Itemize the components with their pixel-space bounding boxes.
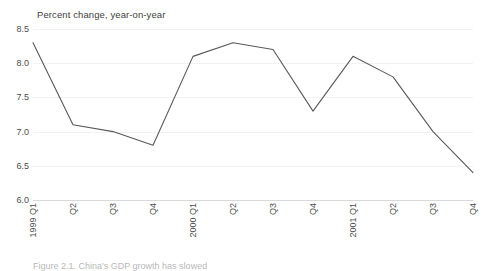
x-tick-label-text: Q2	[229, 203, 238, 215]
y-tick-label: 6.0	[3, 195, 29, 205]
x-tick-label: Q4	[147, 203, 159, 265]
x-tick-label-text: Q4	[309, 203, 318, 215]
y-axis: 6.06.57.07.58.08.5	[0, 29, 29, 200]
x-tick-label-text: Q2	[69, 203, 78, 215]
y-tick-label: 8.5	[3, 24, 29, 34]
x-tick-label-text: 2000 Q1	[189, 203, 198, 238]
x-tick-label: Q3	[427, 203, 439, 265]
x-tick-label: 1999 Q1	[27, 203, 39, 265]
x-tick-label: Q3	[267, 203, 279, 265]
x-axis: 1999 Q1Q2Q3Q42000 Q1Q2Q3Q42001 Q1Q2Q3Q4	[33, 203, 473, 267]
x-tick-label-text: Q4	[149, 203, 158, 215]
y-tick-label: 8.0	[3, 58, 29, 68]
x-tick-label: 2001 Q1	[347, 203, 359, 265]
x-tick-label-text: Q2	[389, 203, 398, 215]
y-tick-label: 6.5	[3, 161, 29, 171]
x-tick-label-text: Q3	[109, 203, 118, 215]
line-series	[33, 29, 473, 200]
x-tick-label-text: Q4	[469, 203, 478, 215]
x-tick-label: 2000 Q1	[187, 203, 199, 265]
x-tick-label: Q2	[387, 203, 399, 265]
chart-title: Percent change, year-on-year	[37, 9, 165, 20]
x-tick-label: Q4	[307, 203, 319, 265]
x-tick-label-text: 1999 Q1	[29, 203, 38, 238]
x-tick-label-text: 2001 Q1	[349, 203, 358, 238]
x-tick-label-text: Q3	[269, 203, 278, 215]
x-tick-label: Q3	[107, 203, 119, 265]
x-axis-baseline	[33, 200, 473, 201]
y-tick-label: 7.5	[3, 92, 29, 102]
x-tick-label-text: Q3	[429, 203, 438, 215]
plot-area	[33, 29, 473, 200]
y-tick-label: 7.0	[3, 127, 29, 137]
figure-caption: Figure 2.1. China's GDP growth has slowe…	[33, 261, 207, 271]
x-tick-label: Q2	[67, 203, 79, 265]
x-tick-label: Q4	[467, 203, 479, 265]
x-tick-label: Q2	[227, 203, 239, 265]
